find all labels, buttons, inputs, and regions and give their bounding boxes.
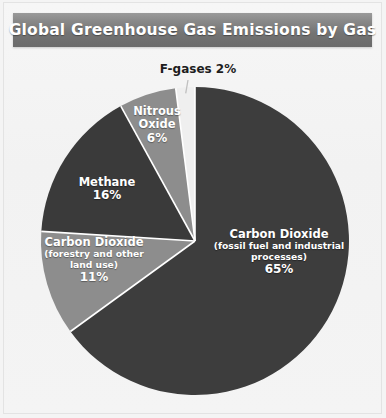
pie-chart-area [0,0,386,418]
pie-chart-svg [0,0,386,418]
chart-container: Global Greenhouse Gas Emissions by Gas C… [0,0,386,418]
